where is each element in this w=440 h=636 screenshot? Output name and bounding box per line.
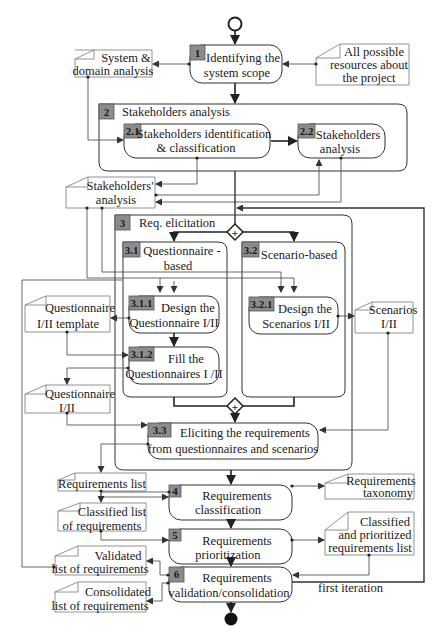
step-3-1-2-fill-questionnaires[interactable]: 3.1.2 Fill the Questionnaires I /II [125, 347, 222, 384]
artifact-label-line: taxonomy [363, 486, 414, 500]
step-number: 1 [195, 47, 201, 59]
step-label-line: system scope [204, 66, 271, 80]
artifact-label-line: System & [101, 51, 151, 65]
artifact-stakeholders-analysis[interactable]: Stakeholders' analysis [66, 177, 155, 208]
artifact-consolidated-list[interactable]: Consolidated list of requirements [51, 582, 151, 613]
step-5-requirements-prioritization[interactable]: 5 Requirements prioritization [169, 529, 292, 564]
step-number: 3.1.1 [131, 297, 153, 309]
artifact-label-line: the project [342, 71, 396, 85]
step-label-line: Design the [161, 301, 215, 315]
gateway-symbol: + [232, 401, 238, 413]
artifact-label-line: Consolidated [85, 585, 152, 599]
step-number: 3.1 [125, 244, 139, 256]
flow-fork-to-3-1 [174, 232, 227, 241]
step-label-line: Requirements [202, 534, 272, 548]
step-number: 3.1.2 [131, 348, 154, 360]
step-3-3-eliciting-requirements[interactable]: 3.3 Eliciting the requirements from ques… [148, 423, 319, 459]
step-label-line: Questionnaires I /II [125, 367, 222, 381]
artifact-label-line: domain analysis [73, 64, 154, 78]
step-number: 3.3 [153, 424, 167, 436]
gateway-symbol: + [232, 227, 238, 239]
artifact-questionnaire[interactable]: Questionnaire I/II [25, 385, 116, 415]
flow-3-1-to-join [174, 397, 227, 406]
artifact-scenarios[interactable]: Scenarios I/II [355, 302, 417, 333]
artifact-label-line: Classified [360, 515, 411, 529]
step-label-line: Stakeholders identification [137, 127, 272, 141]
artifact-label-line: I/II [59, 401, 75, 415]
step-number: 3 [120, 217, 126, 229]
artifact-label-line: Questionnaire [45, 301, 116, 315]
flow-stakeholders-doc-to-2-2 [156, 160, 319, 195]
loop-label: first iteration [318, 581, 384, 595]
artifact-label-line: Scenarios [369, 303, 418, 317]
artifact-requirements-taxonomy[interactable]: Requirements taxonomy [325, 474, 416, 500]
flow-questionnaire-to-3-3 [67, 413, 147, 425]
join-gateway: + [227, 398, 243, 414]
artifact-label-line: of requirements [63, 519, 142, 533]
group-title: Stakeholders analysis [122, 105, 230, 119]
step-label-line: validation/consolidation [169, 586, 291, 600]
artifact-label-line: Questionnaire [45, 387, 116, 401]
step-number: 3.2.1 [251, 298, 273, 310]
step-label-line: Fill the [168, 352, 204, 366]
step-label-line: based [164, 259, 193, 273]
step-number: 3.2 [244, 244, 258, 256]
step-label-line: Requirements [202, 571, 272, 585]
step-label-line: Stakeholders [316, 128, 381, 142]
flow-3-3-to-requirements-list [101, 444, 148, 472]
step-label-line: classification [195, 503, 262, 517]
step-number: 2.2 [300, 125, 314, 137]
flow-prioritized-list-to-6 [293, 555, 369, 575]
step-label-line: Questionnaire I/II [129, 316, 218, 330]
artifact-label-line: requirements list [328, 541, 412, 555]
step-6-requirements-validation[interactable]: 6 Requirements validation/consolidation [169, 567, 292, 602]
step-label-line: Eliciting the requirements [180, 426, 310, 440]
end-node [225, 613, 238, 626]
group-title: Req. elicitation [139, 216, 216, 230]
start-node [229, 18, 242, 31]
flow-scenarios-to-3-3 [320, 333, 388, 430]
step-number: 2 [104, 106, 110, 118]
artifact-system-domain-analysis[interactable]: System & domain analysis [73, 50, 154, 78]
artifact-all-possible-resources[interactable]: All possible resources about the project [316, 44, 409, 85]
step-label-line: Questionnaire - [143, 244, 220, 258]
artifact-label-line: All possible [344, 45, 405, 59]
artifact-label-line: Classified list [78, 505, 147, 519]
artifact-classified-list[interactable]: Classified list of requirements [58, 503, 147, 533]
step-3-2-1-design-scenarios[interactable]: 3.2.1 Design the Scenarios I/II [249, 297, 338, 334]
artifact-validated-list[interactable]: Validated list of requirements [51, 546, 148, 576]
artifact-label-line: I/II [381, 317, 397, 331]
step-4-requirements-classification[interactable]: 4 Requirements classification [169, 485, 292, 520]
fork-gateway: + [227, 224, 243, 240]
artifact-label-line: list of requirements [51, 562, 148, 576]
artifact-requirements-list[interactable]: Requirements list [58, 473, 146, 491]
step-label-line: Requirements [202, 489, 272, 503]
flow-template-to-3-1-2 [67, 332, 128, 355]
artifact-classified-prioritized-list[interactable]: Classified and prioritized requirements … [325, 512, 414, 555]
step-number: 6 [174, 568, 180, 580]
artifact-label-line: I/II template [37, 317, 100, 331]
artifact-label-line: list of requirements [51, 599, 148, 613]
artifact-label-line: Requirements list [58, 477, 146, 491]
artifact-label-line: Stakeholders' [87, 179, 154, 193]
step-2-1-stakeholders-identification[interactable]: 2.1 Stakeholders identification & classi… [124, 124, 272, 158]
process-diagram: 1 Identifying the system scope System & … [0, 0, 440, 636]
artifact-questionnaire-template[interactable]: Questionnaire I/II template [25, 296, 116, 332]
step-label-line: Scenario-based [261, 248, 338, 262]
step-1-identifying-scope[interactable]: 1 Identifying the system scope [190, 45, 282, 83]
step-3-1-1-design-questionnaire[interactable]: 3.1.1 Design the Questionnaire I/II [129, 296, 219, 333]
step-label-line: prioritization [195, 548, 261, 562]
flow-fork-to-3-2 [243, 232, 294, 241]
step-label-line: & classification [157, 141, 237, 155]
step-label-line: from questionnaires and scenarios [148, 442, 319, 456]
flow-validated-to-outer [22, 560, 54, 567]
step-label-line: Identifying the [206, 51, 280, 65]
step-label-line: Scenarios I/II [262, 317, 330, 331]
artifact-label-line: analysis [96, 193, 136, 207]
artifact-label-line: and prioritized [338, 528, 412, 542]
step-number: 4 [172, 485, 178, 497]
flow-3-2-to-join [243, 397, 294, 406]
step-number: 5 [172, 529, 178, 541]
step-2-2-stakeholders-analysis[interactable]: 2.2 Stakeholders analysis [298, 124, 385, 158]
step-label-line: Design the [278, 302, 332, 316]
